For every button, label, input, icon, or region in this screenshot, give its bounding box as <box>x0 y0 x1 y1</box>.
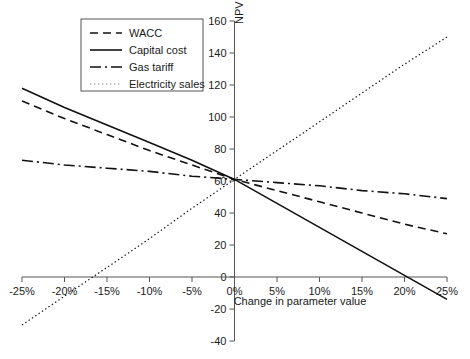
y-tick-label: 60 <box>214 175 226 187</box>
chart-legend: WACCCapital costGas tariffElectricity sa… <box>81 19 205 91</box>
sensitivity-chart-figure: -40-20020406080100120140160 -25%-20%-15%… <box>0 0 470 359</box>
x-tick-label: 20% <box>393 285 415 297</box>
x-tick-label: -5% <box>182 285 202 297</box>
x-tick-label: -25% <box>9 285 35 297</box>
y-axis-ticks: -40-20020406080100120140160 <box>208 15 234 347</box>
legend-label-gas-tariff: Gas tariff <box>129 61 174 73</box>
y-tick-label: -20 <box>211 303 227 315</box>
x-tick-label: -15% <box>94 285 120 297</box>
x-tick-label: -10% <box>137 285 163 297</box>
x-axis: -25%-20%-15%-10%-5%0%5%10%15%20%25% <box>9 277 458 297</box>
y-tick-label: 80 <box>214 143 226 155</box>
x-axis-title: Change in parameter value <box>234 295 367 307</box>
y-tick-label: 40 <box>214 207 226 219</box>
y-tick-label: 140 <box>208 47 226 59</box>
legend-label-capital-cost: Capital cost <box>129 44 186 56</box>
y-tick-label: 160 <box>208 15 226 27</box>
legend-label-electricity-sales: Electricity sales <box>129 78 205 90</box>
y-tick-label: -40 <box>211 335 227 347</box>
y-tick-label: 20 <box>214 239 226 251</box>
legend-label-wacc: WACC <box>129 27 162 39</box>
chart-canvas: -40-20020406080100120140160 -25%-20%-15%… <box>0 0 470 359</box>
y-tick-label: 120 <box>208 79 226 91</box>
y-tick-label: 100 <box>208 111 226 123</box>
x-axis-ticks: -25%-20%-15%-10%-5%0%5%10%15%20%25% <box>9 277 458 297</box>
x-tick-label: -20% <box>52 285 78 297</box>
y-axis-title: NPV (€m) <box>233 0 245 24</box>
y-axis: -40-20020406080100120140160 <box>208 15 234 347</box>
